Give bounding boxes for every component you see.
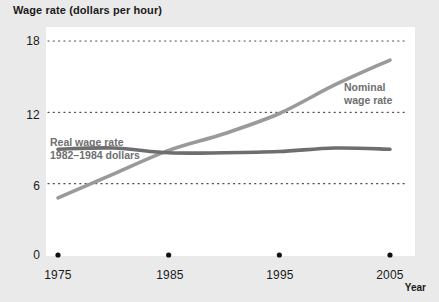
series-line-nominal — [58, 60, 390, 198]
x-tick-mark-2005 — [387, 252, 392, 257]
gridlines-group — [48, 41, 408, 184]
chart-canvas — [0, 0, 439, 302]
x-tick-mark-1995 — [277, 252, 282, 257]
x-tick-mark-1985 — [166, 252, 171, 257]
series-line-real — [58, 148, 390, 153]
chart-figure: Wage rate (dollars per hour) 18 12 6 0 1… — [0, 0, 439, 302]
data-series-group — [58, 60, 390, 198]
x-tick-mark-1975 — [55, 252, 60, 257]
x-tick-marks-group — [55, 252, 392, 257]
